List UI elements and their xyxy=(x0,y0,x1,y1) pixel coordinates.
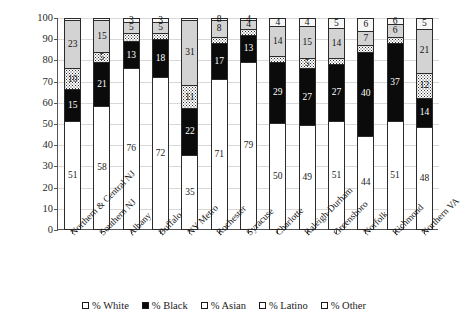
bar-segment-value-label: 51 xyxy=(332,171,342,181)
legend-label: % Other xyxy=(331,300,366,311)
bar-slot: 513766 xyxy=(380,18,409,230)
bar-segment: 13 xyxy=(124,42,139,69)
stacked-bar[interactable]: 444076 xyxy=(357,18,374,230)
bar-segment-value-label: 37 xyxy=(390,78,400,88)
bar-segment-value-label: 3 xyxy=(129,16,134,26)
bar-segment-value-label: 14 xyxy=(332,39,342,49)
bar-slot: 5029144 xyxy=(263,18,292,230)
bar-segment: 15 xyxy=(300,27,315,59)
bar-segment: 51 xyxy=(388,122,403,229)
stacked-bar[interactable]: 481412215 xyxy=(416,18,433,230)
legend-item[interactable]: % Latino xyxy=(259,300,308,311)
bar-segment xyxy=(65,19,80,21)
stacked-bar[interactable]: 791344 xyxy=(240,18,257,230)
bar-segment xyxy=(124,34,139,42)
bar-segment-value-label: 13 xyxy=(127,51,137,61)
bar-slot: 721853 xyxy=(146,18,175,230)
bar-segment xyxy=(212,38,227,44)
bar-segment-value-label: 7 xyxy=(363,34,368,44)
bar-segment-value-label: 48 xyxy=(420,174,430,184)
bar-segment: 51 xyxy=(65,122,80,229)
bar-segment-value-label: 8 xyxy=(217,15,222,25)
bar-segment: 14 xyxy=(329,29,344,58)
bar-segment-value-label: 15 xyxy=(68,101,78,111)
bar-slot: 51151023 xyxy=(58,18,87,230)
legend-swatch-icon xyxy=(321,302,328,309)
bar-segment: 35 xyxy=(182,156,197,229)
bar-segment: 4 xyxy=(270,19,285,27)
bar-segment-value-label: 27 xyxy=(302,93,312,103)
legend-item[interactable]: % Asian xyxy=(201,300,246,311)
bar-segment-value-label: 3 xyxy=(158,16,163,26)
legend-item[interactable]: % Other xyxy=(321,300,366,311)
legend-item[interactable]: % Black xyxy=(142,300,188,311)
stacked-bar[interactable]: 35221131 xyxy=(181,18,198,230)
bar-segment: 8 xyxy=(212,19,227,21)
stacked-bar[interactable]: 513766 xyxy=(387,18,404,230)
bar-slot: 711788 xyxy=(205,18,234,230)
stacked-bar[interactable]: 49275154 xyxy=(299,18,316,230)
bar-segment: 14 xyxy=(417,99,432,128)
legend-swatch-icon xyxy=(201,302,208,309)
stacked-bar[interactable]: 5029144 xyxy=(269,18,286,230)
stacked-bar[interactable]: 721853 xyxy=(152,18,169,230)
legend-swatch-icon xyxy=(82,302,89,309)
bar-segment-value-label: 58 xyxy=(97,163,107,173)
legend-label: % Black xyxy=(152,300,188,311)
bar-segment: 21 xyxy=(417,30,432,74)
bar-segment-value-label: 51 xyxy=(68,171,78,181)
bar-segment-value-label: 49 xyxy=(302,173,312,183)
x-axis-category-labels: Northern & Central NJSouthern NJAlbanyBu… xyxy=(57,231,438,299)
bar-segment-value-label: 21 xyxy=(97,80,107,90)
bar-segment-value-label: 4 xyxy=(246,15,251,25)
bar-segment-value-label: 13 xyxy=(244,44,254,54)
bar-segment xyxy=(270,57,285,63)
bar-segment-value-label: 12 xyxy=(420,81,430,91)
bar-segment-value-label: 50 xyxy=(273,172,283,182)
bar-segment-value-label: 4 xyxy=(275,18,280,28)
bar-segment xyxy=(388,38,403,44)
bar-slot: 35221131 xyxy=(175,18,204,230)
legend-swatch-icon xyxy=(142,302,149,309)
bar-segment: 15 xyxy=(94,21,109,53)
bar-segment-value-label: 15 xyxy=(97,32,107,42)
bar-segment-value-label: 40 xyxy=(361,89,371,99)
stacked-bar[interactable]: 51151023 xyxy=(64,18,81,230)
bar-segment xyxy=(329,59,344,65)
stacked-bar[interactable]: 711788 xyxy=(211,18,228,230)
bar-segment-value-label: 10 xyxy=(68,75,78,85)
bar-segment-value-label: 6 xyxy=(393,17,398,27)
bar-slot: 791344 xyxy=(234,18,263,230)
bar-segment: 10 xyxy=(65,69,80,90)
bar-segment: 7 xyxy=(358,32,373,47)
bar-segment xyxy=(94,19,109,21)
legend-label: % Latino xyxy=(269,300,308,311)
bar-segment: 3 xyxy=(124,19,139,23)
bar-segment: 40 xyxy=(358,53,373,137)
legend-label: % Asian xyxy=(211,300,246,311)
bar-segment-value-label: 8 xyxy=(217,24,222,34)
bar-segment-value-label: 5 xyxy=(100,53,105,63)
bar-segment: 18 xyxy=(153,40,168,78)
bar-segment: 79 xyxy=(241,63,256,229)
bar-segment-value-label: 79 xyxy=(244,141,254,151)
bar-segment: 5 xyxy=(94,53,109,64)
bar-segment-value-label: 21 xyxy=(420,46,430,56)
bar-segment-value-label: 6 xyxy=(393,26,398,36)
legend-item[interactable]: % White xyxy=(82,300,129,311)
bar-segment: 37 xyxy=(388,44,403,122)
bar-segment-value-label: 5 xyxy=(334,19,339,29)
bar-segment-value-label: 35 xyxy=(185,188,195,198)
bar-segment: 72 xyxy=(153,78,168,229)
bar-segment-value-label: 5 xyxy=(305,59,310,69)
bar-segment: 4 xyxy=(241,19,256,21)
bar-slot: 49275154 xyxy=(293,18,322,230)
bar-segment: 23 xyxy=(65,21,80,69)
bar-segment: 5 xyxy=(329,19,344,30)
bar-segment-value-label: 5 xyxy=(422,19,427,29)
bar-segment-value-label: 6 xyxy=(363,20,368,30)
bar-segment-value-label: 76 xyxy=(127,144,137,154)
bar-segment-value-label: 14 xyxy=(273,37,283,47)
bar-segment: 6 xyxy=(358,19,373,32)
